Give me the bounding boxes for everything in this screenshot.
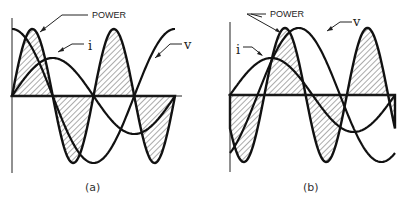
arrow-icon: [40, 26, 46, 32]
power-label-b: POWER: [270, 9, 305, 19]
caption-a: (a): [85, 181, 100, 194]
panel-a: POWER i v (a): [10, 10, 192, 194]
current-label-b: i: [236, 42, 240, 57]
ac-power-waveforms-diagram: POWER i v (a) POWER i v (b): [0, 0, 408, 198]
panel-b: POWER i v (b): [228, 9, 396, 194]
caption-b: (b): [303, 181, 319, 194]
power-label-a: POWER: [92, 10, 127, 20]
voltage-label-a: v: [183, 37, 192, 52]
power-leader-a: [40, 15, 88, 32]
current-label-a: i: [88, 38, 92, 53]
voltage-label-b: v: [352, 14, 361, 29]
arrow-icon: [58, 47, 64, 52]
arrow-icon: [327, 26, 333, 31]
